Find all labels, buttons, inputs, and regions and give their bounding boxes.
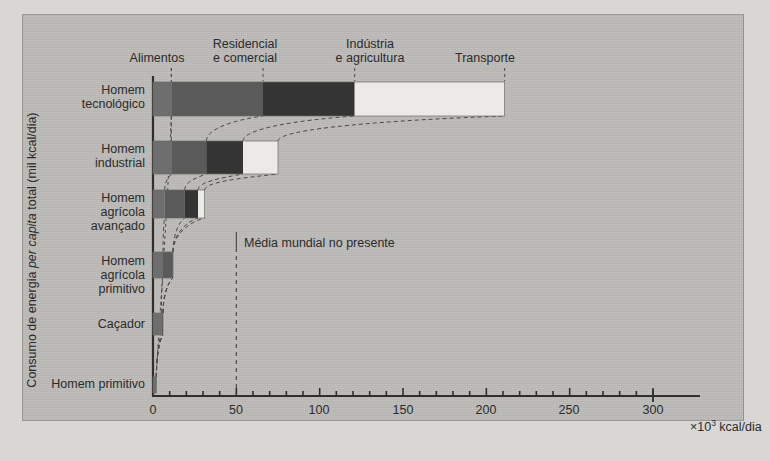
row-connector-2-3 [173, 218, 198, 252]
figure-root: Alimentos Residencial e comercial Indúst… [0, 0, 770, 461]
row-connector-1-2 [185, 174, 207, 190]
bar-segment-residencial-2 [165, 190, 185, 218]
bar-segment-alimentos-2 [153, 190, 165, 218]
bar-segment-alimentos-4 [153, 313, 161, 335]
bar-segment-residencial-3 [163, 252, 173, 278]
bar-segment-industria-0 [263, 82, 355, 116]
bar-segment-alimentos-3 [153, 252, 163, 278]
bar-segment-industria-1 [206, 141, 243, 174]
row-connector-1-4 [205, 174, 278, 190]
row-connector-2-1 [163, 218, 165, 252]
row-connector-0-2 [206, 116, 263, 141]
bar-segment-transporte-1 [243, 141, 278, 174]
row-connector-3-1 [161, 278, 163, 313]
bar-segment-residencial-0 [171, 82, 263, 116]
bar-segment-alimentos-5 [153, 377, 156, 393]
bar-segment-residencial-1 [171, 141, 206, 174]
bar-series-group [153, 82, 505, 393]
row-connector-2-2 [173, 218, 185, 252]
bar-segment-transporte-0 [355, 82, 505, 116]
row-connector-3-4 [163, 278, 173, 313]
row-connector-0-4 [278, 116, 505, 141]
bar-segment-alimentos-0 [153, 82, 171, 116]
row-connector-1-3 [198, 174, 243, 190]
row-connector-0-3 [243, 116, 355, 141]
bar-segment-alimentos-1 [153, 141, 171, 174]
axis-lines [152, 76, 700, 396]
bar-segment-transporte-2 [198, 190, 205, 218]
bar-segment-industria-2 [185, 190, 198, 218]
chart-svg [0, 0, 770, 461]
